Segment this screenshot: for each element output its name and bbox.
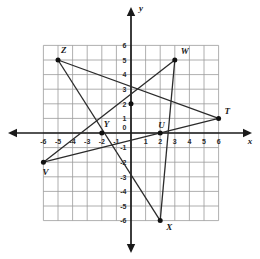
y-tick-3: 3 — [123, 86, 127, 93]
point-label-V: V — [42, 167, 49, 177]
x-tick--2: -2 — [99, 138, 105, 145]
x-tick--3: -3 — [84, 138, 90, 145]
y-tick--6: -6 — [120, 217, 126, 224]
y-tick-2: 2 — [123, 101, 127, 108]
point-label-T: T — [225, 106, 231, 116]
x-tick-2: 2 — [158, 138, 162, 145]
y-tick--1: -1 — [120, 144, 126, 151]
y-tick--4: -4 — [120, 188, 126, 195]
y-tick--3: -3 — [120, 174, 126, 181]
point-label-Z: Z — [60, 45, 67, 55]
point-Z — [56, 58, 61, 63]
y-tick-6: 6 — [123, 42, 127, 49]
point-label-W: W — [181, 46, 190, 56]
point-unlabeled-0-2 — [129, 101, 134, 106]
point-label-X: X — [165, 222, 173, 232]
point-Y — [99, 131, 104, 136]
point-W — [172, 58, 177, 63]
point-T — [216, 116, 221, 121]
segment-V-W — [43, 60, 174, 162]
coordinate-plane-svg: -6-5-4-3-2-1123456654321-1-2-3-4-5-60 TU… — [0, 0, 260, 259]
y-tick-4: 4 — [123, 71, 127, 78]
y-tick-1: 1 — [123, 115, 127, 122]
point-label-U: U — [158, 120, 165, 130]
x-tick-5: 5 — [202, 138, 206, 145]
x-tick-4: 4 — [187, 138, 191, 145]
x-axis-label: x — [247, 136, 253, 146]
x-tick--6: -6 — [40, 138, 46, 145]
x-tick--5: -5 — [55, 138, 61, 145]
point-V — [41, 160, 46, 165]
point-U — [158, 131, 163, 136]
x-tick-1: 1 — [144, 138, 148, 145]
y-axis-label: y — [138, 3, 144, 13]
y-tick-5: 5 — [123, 57, 127, 64]
point-label-Y: Y — [104, 119, 111, 129]
axes — [8, 7, 252, 253]
coordinate-plane-figure: -6-5-4-3-2-1123456654321-1-2-3-4-5-60 TU… — [0, 0, 260, 259]
x-tick-6: 6 — [217, 138, 221, 145]
point-X — [158, 218, 163, 223]
x-tick-3: 3 — [173, 138, 177, 145]
y-tick--5: -5 — [120, 203, 126, 210]
origin-tick: 0 — [123, 124, 127, 131]
